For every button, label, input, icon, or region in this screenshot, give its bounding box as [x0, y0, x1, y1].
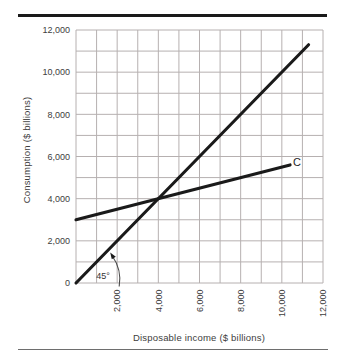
figure: 02,0004,0006,0008,00010,00012,0002,0004,… — [0, 0, 342, 363]
y-tick-label: 10,000 — [42, 67, 70, 77]
y-tick-label: 4,000 — [47, 194, 70, 204]
y-axis-title: Consumption ($ billions) — [21, 97, 32, 204]
x-tick-label: 4,000 — [154, 290, 164, 313]
angle-arc — [112, 256, 120, 287]
y-tick-label: 12,000 — [42, 25, 70, 35]
x-tick-label: 10,000 — [277, 290, 287, 318]
line-45-degree — [76, 45, 309, 283]
bottom-rule — [18, 349, 328, 350]
consumption-line-label: C — [293, 156, 301, 168]
angle-annotation-label: 45° — [96, 271, 110, 281]
y-tick-label: 2,000 — [47, 236, 70, 246]
chart-plot-area: 02,0004,0006,0008,00010,00012,0002,0004,… — [0, 0, 342, 363]
angle-arrowhead — [110, 253, 116, 260]
x-axis-title: Disposable income ($ billions) — [133, 332, 265, 343]
x-tick-label: 2,000 — [112, 290, 122, 313]
x-tick-label: 12,000 — [318, 290, 328, 318]
y-tick-label: 8,000 — [47, 110, 70, 120]
x-tick-label: 8,000 — [236, 290, 246, 313]
x-tick-label: 6,000 — [195, 290, 205, 313]
y-tick-label: 0 — [65, 278, 70, 288]
y-tick-label: 6,000 — [47, 152, 70, 162]
